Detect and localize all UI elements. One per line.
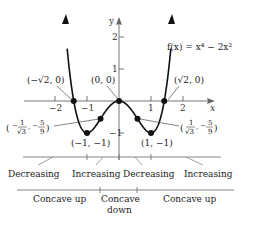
svg-text:−: − <box>32 122 38 130</box>
svg-text:√3: √3 <box>17 128 26 136</box>
x-tick-label: 1 <box>148 103 154 113</box>
svg-text:(: ( <box>180 123 184 133</box>
concave-down-1: Concave <box>101 194 140 204</box>
point-sqrt2-zero <box>161 98 167 104</box>
svg-text:): ) <box>46 123 50 133</box>
svg-text:,: , <box>28 123 30 131</box>
function-label: f(x) = x⁴ − 2x² <box>167 42 232 52</box>
svg-text:−: − <box>200 122 206 130</box>
x-tick-label: −1 <box>81 103 94 113</box>
point-neg-one-min <box>84 130 90 136</box>
concave-up-right: Concave up <box>163 194 217 204</box>
interval-decreasing-2: Decreasing <box>123 169 175 179</box>
interval-increasing-2: Increasing <box>184 169 233 179</box>
y-axis-arrow-icon <box>116 17 122 25</box>
leader-origin <box>107 86 118 99</box>
svg-text:5: 5 <box>208 119 212 127</box>
y-tick-label: −1 <box>109 128 122 138</box>
svg-text:1: 1 <box>20 119 24 127</box>
leader-sqrt2 <box>168 86 179 100</box>
concave-up-left: Concave up <box>33 194 87 204</box>
svg-text:5: 5 <box>40 119 44 127</box>
y-tick-label: 1 <box>112 64 118 74</box>
point-origin <box>116 98 122 104</box>
svg-text:,: , <box>196 123 198 131</box>
label-pos-inflection: ( 1 √3 , − 5 9 ) <box>180 119 218 136</box>
svg-text:√3: √3 <box>185 128 194 136</box>
interval-decreasing-1: Decreasing <box>8 169 60 179</box>
x-tick-label: 2 <box>180 103 186 113</box>
curve-arrow-left-icon <box>62 14 69 24</box>
y-axis-label: y <box>108 16 115 26</box>
svg-text:1: 1 <box>189 119 193 127</box>
concave-down-2: down <box>107 205 132 215</box>
x-tick-label: −2 <box>49 103 62 113</box>
x-axis-label: x <box>210 103 215 113</box>
svg-text:): ) <box>214 123 218 133</box>
label-neg-one-min: (−1, −1) <box>71 138 110 148</box>
label-origin: (0, 0) <box>91 75 115 85</box>
svg-text:9: 9 <box>40 128 44 136</box>
leader-neg-inflection <box>54 119 99 126</box>
interval-increasing-1: Increasing <box>72 169 121 179</box>
leader-neg-sqrt2 <box>57 86 72 100</box>
svg-text:9: 9 <box>208 128 212 136</box>
curve-arrow-right-icon <box>168 14 175 24</box>
point-one-min <box>148 130 154 136</box>
point-pos-inflection <box>134 116 140 122</box>
svg-text:(: ( <box>6 123 10 133</box>
point-neg-sqrt2-zero <box>71 98 77 104</box>
label-neg-inflection: ( − 1 √3 , − 5 9 ) <box>6 119 50 136</box>
function-graph: y x −2−112 12−1 f(x) = x⁴ − 2x² (−√2, 0)… <box>0 0 255 228</box>
point-neg-inflection <box>98 116 104 122</box>
label-neg-sqrt2-zero: (−√2, 0) <box>27 75 64 85</box>
label-one-min: (1, −1) <box>141 138 173 148</box>
y-tick-label: 2 <box>112 32 118 42</box>
label-sqrt2-zero: (√2, 0) <box>174 75 204 85</box>
